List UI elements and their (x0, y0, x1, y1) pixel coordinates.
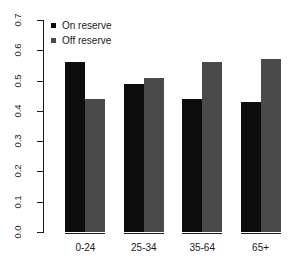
x-axis-tick-label: 35-64 (189, 242, 215, 253)
y-axis-tick (37, 202, 43, 203)
y-axis-tick (37, 232, 43, 233)
y-axis-tick (37, 171, 43, 172)
x-axis-segment (182, 233, 222, 234)
bar-35-64-off-reserve (202, 62, 222, 232)
x-axis-segment (124, 233, 164, 234)
legend-item-off-reserve: Off reserve (51, 34, 111, 47)
legend-label-off-reserve: Off reserve (62, 35, 111, 46)
y-axis-tick-label: 0.7 (12, 13, 23, 26)
bar-65plus-on-reserve (241, 102, 261, 232)
y-axis-tick (37, 141, 43, 142)
y-axis-line (43, 20, 44, 233)
bar-25-34-off-reserve (144, 78, 164, 232)
y-axis-tick-label: 0.1 (12, 195, 23, 208)
y-axis-tick (37, 81, 43, 82)
plot-area (47, 20, 299, 232)
x-axis-tick-label: 0-24 (75, 242, 95, 253)
chart-legend: On reserve Off reserve (51, 19, 111, 49)
legend-swatch-icon (51, 23, 56, 28)
legend-item-on-reserve: On reserve (51, 19, 111, 32)
y-axis-tick-label: 0.5 (12, 74, 23, 87)
x-axis-tick-label: 65+ (252, 242, 269, 253)
bar-65plus-off-reserve (261, 59, 281, 232)
bar-0-24-off-reserve (85, 99, 105, 232)
x-axis-segment (241, 233, 281, 234)
bar-35-64-on-reserve (182, 99, 202, 232)
legend-label-on-reserve: On reserve (62, 20, 111, 31)
legend-swatch-icon (51, 38, 56, 43)
y-axis-tick-label: 0.4 (12, 104, 23, 117)
x-axis-tick-label: 25-34 (131, 242, 157, 253)
bar-25-34-on-reserve (124, 84, 144, 232)
y-axis-tick-label: 0.2 (12, 165, 23, 178)
y-axis-tick-label: 0.0 (12, 225, 23, 238)
y-axis-tick (37, 20, 43, 21)
bar-0-24-on-reserve (65, 62, 85, 232)
x-axis-segment (65, 233, 105, 234)
bar-chart: 0.00.10.20.30.40.50.60.7 0-2425-3435-646… (0, 0, 306, 277)
y-axis-tick-label: 0.3 (12, 135, 23, 148)
y-axis-tick (37, 111, 43, 112)
y-axis-tick-label: 0.6 (12, 44, 23, 57)
y-axis-tick (37, 50, 43, 51)
